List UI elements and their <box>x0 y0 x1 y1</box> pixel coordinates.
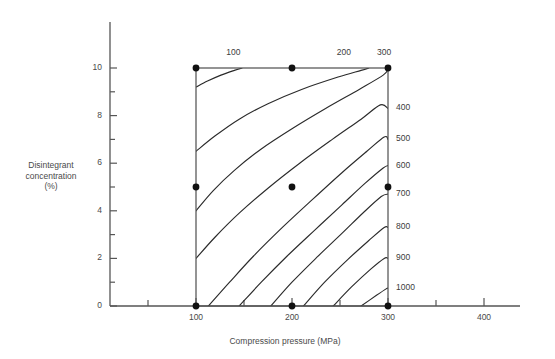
contour-label-300: 300 <box>368 47 400 58</box>
design-point <box>385 303 392 310</box>
contour-label-900: 900 <box>396 252 430 263</box>
contour-line-1000 <box>361 288 388 306</box>
x-tick-label: 400 <box>468 312 500 323</box>
contour-label-400: 400 <box>396 102 430 113</box>
y-tick-label: 4 <box>76 205 102 216</box>
contour-label-600: 600 <box>396 160 430 171</box>
contour-label-1000: 1000 <box>396 282 430 293</box>
x-tick-label: 100 <box>180 312 212 323</box>
contour-label-500: 500 <box>396 133 430 144</box>
y-tick-label: 2 <box>76 252 102 263</box>
design-point <box>193 184 200 191</box>
design-point <box>385 65 392 72</box>
x-tick-label: 200 <box>276 312 308 323</box>
contour-line-700 <box>271 194 388 306</box>
y-tick-label: 8 <box>76 110 102 121</box>
y-tick-label: 10 <box>76 62 102 73</box>
contour-line-500 <box>208 136 388 306</box>
contour-line-100 <box>196 68 242 87</box>
contour-label-800: 800 <box>396 221 430 232</box>
contour-label-100: 100 <box>217 47 249 58</box>
contour-line-800 <box>304 226 388 306</box>
design-point <box>193 65 200 72</box>
contour-line-400 <box>196 104 388 258</box>
contour-line-200 <box>196 68 369 151</box>
axes-group <box>110 22 520 306</box>
design-point <box>289 65 296 72</box>
design-point <box>289 303 296 310</box>
y-axis-title: Disintegrantconcentration(%) <box>8 160 94 192</box>
contour-label-200: 200 <box>328 47 360 58</box>
design-point <box>193 303 200 310</box>
y-tick-label: 0 <box>76 300 102 311</box>
design-point <box>289 184 296 191</box>
x-axis-title: Compression pressure (MPa) <box>195 336 375 347</box>
design-point <box>385 184 392 191</box>
contour-plot-figure: 0246810 100200300400 100200300 400500600… <box>0 0 555 359</box>
contour-label-700: 700 <box>396 188 430 199</box>
x-tick-label: 300 <box>372 312 404 323</box>
contour-line-600 <box>239 166 388 306</box>
